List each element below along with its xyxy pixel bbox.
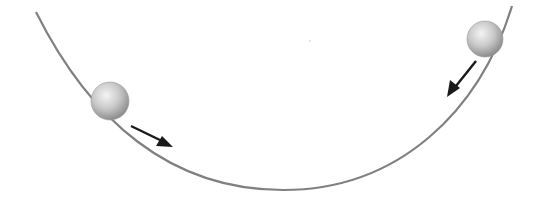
speck: [309, 40, 311, 42]
ball-left: [91, 82, 129, 120]
bowl-diagram: [0, 0, 536, 198]
ball-right: [467, 21, 503, 57]
arrow-left-icon: [131, 126, 173, 147]
diagram-canvas: [0, 0, 536, 198]
